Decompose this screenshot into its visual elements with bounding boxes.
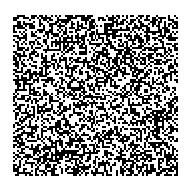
noise-pattern bbox=[13, 15, 178, 176]
